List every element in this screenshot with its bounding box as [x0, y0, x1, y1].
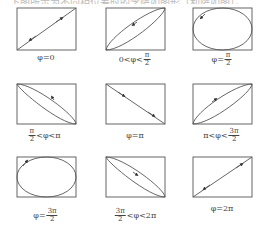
- denominator: 2: [226, 60, 230, 67]
- label-text: φ=π: [126, 131, 144, 140]
- label-text: π<φ<: [203, 131, 227, 140]
- label-text: 0<φ<: [119, 55, 143, 64]
- label-text: <φ<2π: [127, 211, 156, 220]
- label-text: <φ<π: [36, 131, 60, 140]
- denominator: 2: [30, 136, 34, 143]
- fraction: 3π2: [115, 208, 126, 223]
- fraction: 3π2: [229, 128, 240, 143]
- fraction: π2: [225, 52, 232, 67]
- trace-ellipse: [193, 8, 252, 50]
- label-phi-pi-2: φ= π2: [212, 52, 233, 67]
- trace-line: [193, 157, 252, 197]
- trace-line: [17, 8, 76, 50]
- denominator: 2: [145, 60, 149, 67]
- trace-ellipse: [193, 84, 252, 124]
- denominator: 2: [118, 216, 122, 223]
- label-text: φ=0: [37, 53, 54, 62]
- arrow-icon: [52, 97, 54, 100]
- trace-ellipse: [17, 84, 76, 124]
- panel-phi-pi-2: [193, 8, 252, 50]
- panel-phi-pi-2-to-pi: [17, 84, 76, 124]
- trace-ellipse: [106, 157, 165, 197]
- label-text: φ=: [212, 55, 224, 64]
- label-phi-pi-to-3pi-2: π<φ< 3π2: [203, 128, 240, 143]
- panel-phi-0-to-pi-2: [106, 8, 165, 50]
- label-phi-0: φ=0: [37, 53, 54, 62]
- frame: [193, 84, 252, 124]
- panel-phi-pi-to-3pi-2: [193, 84, 252, 124]
- label-phi-3pi-2-to-2pi: 3π2 <φ<2π: [114, 208, 156, 223]
- label-text: φ=2π: [211, 204, 234, 213]
- arrow-icon: [204, 185, 210, 189]
- fraction: π2: [144, 52, 151, 67]
- arrow-icon: [236, 164, 242, 168]
- frame: [106, 8, 165, 50]
- denominator: 2: [50, 216, 54, 223]
- arrow-icon: [148, 112, 154, 116]
- denominator: 2: [232, 136, 236, 143]
- panel-phi-3pi-2: [17, 157, 76, 197]
- label-phi-3pi-2: φ= 3π2: [33, 208, 58, 223]
- frame: [17, 84, 76, 124]
- label-phi-0-to-pi-2: 0<φ< π2: [119, 52, 152, 67]
- trace-line: [106, 84, 165, 124]
- panel-phi-pi: [106, 84, 165, 124]
- fraction: 3π2: [47, 208, 58, 223]
- panel-phi-2pi: [193, 157, 252, 197]
- label-phi-pi-2-to-pi: π2 <φ<π: [28, 128, 61, 143]
- frame: [106, 157, 165, 197]
- panel-phi-3pi-2-to-2pi: [106, 157, 165, 197]
- label-phi-pi: φ=π: [126, 131, 144, 140]
- panel-phi-0: [17, 8, 76, 50]
- arrow-icon: [30, 36, 36, 40]
- label-phi-2pi: φ=2π: [211, 204, 234, 213]
- trace-ellipse: [106, 8, 165, 50]
- arrow-icon: [56, 18, 62, 22]
- fraction: π2: [29, 128, 36, 143]
- arrow-icon: [133, 172, 137, 175]
- arrow-icon: [23, 161, 27, 166]
- arrow-icon: [118, 92, 124, 96]
- label-text: φ=: [33, 211, 45, 220]
